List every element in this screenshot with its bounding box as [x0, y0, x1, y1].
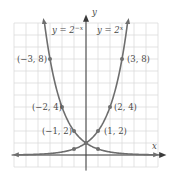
data-point — [120, 57, 124, 61]
point-label-1-2: (1, 2) — [104, 126, 127, 136]
curve-2-x-arrow-icon — [125, 18, 130, 24]
point-label-neg3-8: (−3, 8) — [17, 54, 47, 64]
y-axis-label: y — [91, 7, 97, 17]
x-axis-arrow-icon — [159, 152, 166, 158]
point-label-neg2-4: (−2, 4) — [32, 102, 62, 112]
series-label-2-neg-x: y = 2−x — [51, 24, 84, 35]
data-point — [48, 57, 52, 61]
curve-2-neg-x-arrow-icon — [42, 18, 47, 24]
y-axis-arrow-icon — [83, 15, 89, 22]
point-label-neg1-2: (−1, 2) — [42, 126, 72, 136]
data-point — [96, 147, 100, 151]
data-point — [72, 129, 76, 133]
point-label-2-4: (2, 4) — [114, 102, 137, 112]
data-point — [72, 147, 76, 151]
x-axis-label: x — [152, 141, 157, 151]
series-label-2-x: y = 2x — [96, 24, 124, 35]
axes — [12, 15, 167, 171]
exponential-graph: y x y = 2−x y = 2x (−3, 8) (−2, 4) (−1, … — [0, 0, 170, 177]
data-point — [108, 105, 112, 109]
point-label-3-8: (3, 8) — [127, 54, 150, 64]
data-point — [96, 129, 100, 133]
data-point — [84, 141, 88, 145]
